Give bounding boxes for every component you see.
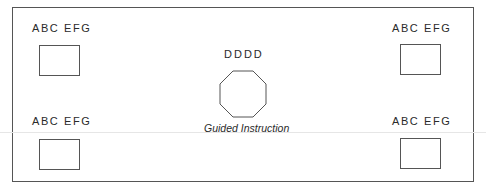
corner-box-top-left [39, 45, 80, 76]
corner-box-bottom-left [39, 139, 80, 170]
corner-box-bottom-right [400, 138, 441, 169]
octagon-shape [219, 70, 267, 118]
guided-instruction-caption: Guided Instruction [204, 122, 289, 134]
corner-label-bottom-right: ABC EFG [392, 115, 452, 127]
corner-label-top-left: ABC EFG [32, 22, 92, 34]
corner-label-top-right: ABC EFG [392, 22, 452, 34]
corner-box-top-right [400, 44, 441, 75]
center-label: DDDD [224, 48, 264, 60]
corner-label-bottom-left: ABC EFG [32, 115, 92, 127]
